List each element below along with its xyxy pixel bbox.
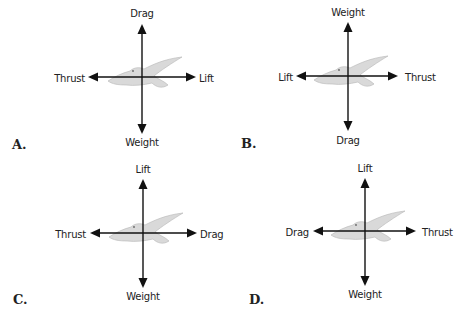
- force-label-up: Lift: [136, 164, 151, 175]
- force-label-up: Lift: [358, 163, 373, 174]
- option-letter: A.: [12, 137, 27, 152]
- force-diagram-c: [0, 157, 231, 315]
- force-diagram-a: [0, 0, 231, 158]
- option-c-panel: Lift Weight Thrust Drag C.: [0, 157, 231, 315]
- force-label-down: Drag: [336, 135, 360, 146]
- option-letter: B.: [241, 136, 257, 151]
- bird-icon: [331, 211, 405, 241]
- option-letter: D.: [249, 292, 264, 307]
- force-label-up: Drag: [130, 8, 154, 19]
- bird-icon: [108, 57, 182, 87]
- force-label-down: Weight: [126, 291, 160, 302]
- force-label-left: Thrust: [54, 73, 85, 84]
- force-label-left: Thrust: [55, 229, 86, 240]
- option-a-panel: Drag Weight Thrust Lift A.: [0, 0, 231, 158]
- force-label-right: Drag: [200, 229, 224, 240]
- option-letter: C.: [13, 292, 28, 307]
- option-b-panel: Weight Drag Lift Thrust B.: [230, 0, 463, 158]
- force-label-left: Lift: [278, 72, 293, 83]
- force-label-right: Thrust: [405, 72, 436, 83]
- force-label-right: Lift: [199, 73, 214, 84]
- force-label-left: Drag: [286, 227, 310, 238]
- option-d-panel: Lift Weight Drag Thrust D.: [230, 157, 463, 315]
- force-label-down: Weight: [348, 289, 382, 300]
- force-label-up: Weight: [331, 7, 365, 18]
- bird-icon: [314, 56, 388, 86]
- bird-icon: [109, 213, 183, 243]
- force-label-right: Thrust: [422, 227, 453, 238]
- force-label-down: Weight: [125, 137, 159, 148]
